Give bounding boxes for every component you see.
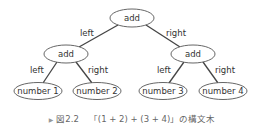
- edge-label-right-n3: left: [157, 65, 171, 75]
- caption-marker-icon: ▶: [49, 116, 54, 123]
- node-left-add: add: [44, 45, 88, 63]
- node-number-4: number 4: [199, 83, 247, 100]
- node-label: number 2: [76, 86, 117, 96]
- node-label: number 1: [17, 86, 58, 96]
- node-number-1: number 1: [14, 83, 62, 100]
- node-number-3: number 3: [139, 83, 187, 100]
- node-root-add: add: [110, 9, 154, 27]
- node-number-2: number 2: [73, 83, 121, 100]
- edge-right-n3: [169, 62, 184, 83]
- node-label: add: [58, 49, 74, 59]
- edge-label-root-right: right: [166, 28, 187, 38]
- node-label: number 3: [142, 86, 183, 96]
- figure-number: 図2.2: [56, 114, 79, 124]
- syntax-tree-diagram: left right left right left right add add…: [0, 0, 264, 110]
- edge-label-left-n1: left: [30, 65, 44, 75]
- node-label: number 4: [202, 86, 243, 96]
- node-label: add: [185, 49, 201, 59]
- edge-label-left-n2: right: [88, 65, 109, 75]
- figure-caption: ▶図2.2「(1 + 2) + (3 + 4)」の構文木: [0, 112, 264, 124]
- caption-text: 「(1 + 2) + (3 + 4)」の構文木: [89, 114, 215, 124]
- edge-label-root-left: left: [80, 28, 94, 38]
- edge-label-right-n4: right: [215, 65, 236, 75]
- node-label: add: [124, 13, 140, 23]
- node-right-add: add: [171, 45, 215, 63]
- edge-left-n1: [43, 62, 57, 83]
